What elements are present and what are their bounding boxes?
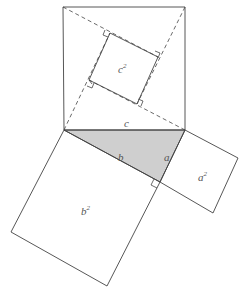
label-side-c: c (124, 117, 129, 129)
label-a-squared: a2 (198, 170, 208, 183)
label-side-b: b (118, 151, 124, 163)
label-b-squared: b2 (81, 204, 91, 217)
pythagoras-diagram: c b a c2 b2 a2 (0, 0, 250, 298)
label-c-squared: c2 (118, 62, 127, 75)
label-side-a: a (164, 151, 170, 163)
